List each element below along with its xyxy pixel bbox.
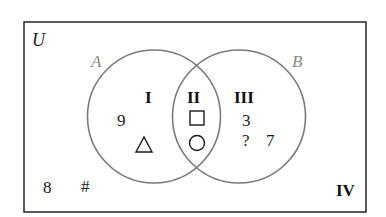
universe-label: U bbox=[32, 30, 46, 50]
region-i-label: I bbox=[145, 88, 152, 107]
element-question: ? bbox=[242, 131, 250, 150]
venn-diagram: U A B I II III IV 9 3 ? 7 8 # bbox=[0, 0, 386, 217]
element-8: 8 bbox=[43, 178, 52, 197]
set-a-label: A bbox=[90, 52, 102, 71]
set-a-circle bbox=[88, 50, 221, 183]
set-b-label: B bbox=[292, 52, 303, 71]
element-7: 7 bbox=[266, 131, 275, 150]
set-b-circle bbox=[173, 50, 306, 183]
element-3: 3 bbox=[242, 111, 251, 130]
universe-rectangle bbox=[24, 22, 366, 212]
square-icon bbox=[190, 111, 204, 125]
region-ii-label: II bbox=[187, 88, 201, 107]
circle-icon bbox=[190, 136, 205, 151]
element-hash: # bbox=[81, 177, 90, 196]
region-iii-label: III bbox=[234, 88, 254, 107]
triangle-icon bbox=[136, 137, 152, 152]
region-iv-label: IV bbox=[336, 181, 356, 200]
element-9: 9 bbox=[117, 111, 126, 130]
